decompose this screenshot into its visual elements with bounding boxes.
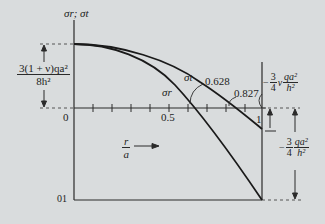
leader-0628 — [190, 84, 203, 104]
edge-t-prefix: − — [263, 78, 269, 88]
sigma-r-zero-value: 0.628 — [205, 76, 230, 87]
edge-r-prefix: − — [279, 143, 285, 153]
max-stress-label: 3(1 + ν)qa² 8h² — [17, 63, 70, 87]
direction-arrow — [134, 144, 159, 149]
edge-r-value: − 3 4 qa² h² — [279, 137, 309, 158]
edge-t-den: h² — [287, 83, 295, 93]
r-label: r — [122, 136, 130, 148]
origin-label: 0 — [63, 112, 69, 123]
edge-r-coef-den: 4 — [287, 148, 292, 158]
edge-r-den: h² — [297, 148, 305, 158]
tick-label-one: 1 — [256, 114, 262, 125]
max-stress-numerator: 3(1 + ν)qa² — [17, 63, 70, 75]
y-axis-label: σr; σt — [64, 8, 89, 19]
sigma-t-label: σt — [184, 72, 192, 83]
edge-t-value: − 3 4 ν qa² h² — [263, 72, 298, 93]
max-stress-denominator: 8h² — [36, 75, 50, 87]
edge-t-nu: ν — [278, 78, 282, 88]
edge-t-coef-den: 4 — [271, 83, 276, 93]
sigma-t-zero-value: 0.827 — [234, 88, 259, 99]
a-label: a — [123, 148, 129, 160]
tick-label-half: 0.5 — [161, 112, 175, 123]
sigma-r-label: σr — [162, 87, 172, 98]
r-over-a-label: r a — [122, 136, 130, 160]
bottom-origin-label: 01 — [57, 194, 67, 204]
edge-t-dimension — [265, 109, 276, 131]
